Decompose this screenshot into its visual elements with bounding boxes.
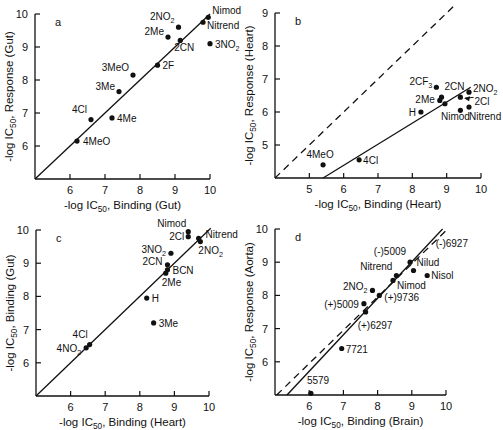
data-point xyxy=(116,89,121,94)
point-label: 4Me xyxy=(117,113,137,124)
point-label: H xyxy=(152,293,159,304)
panel-b: 567891056789b-log IC50​, Binding (Heart)… xyxy=(243,6,501,213)
y-tick-label: 8 xyxy=(23,290,29,302)
y-tick-label: 7 xyxy=(23,324,29,336)
x-tick-label: 6 xyxy=(67,184,73,196)
regression-line xyxy=(323,87,471,178)
x-axis-title: -log IC50​, Binding (Heart) xyxy=(59,416,186,430)
point-label: Nilud xyxy=(417,257,440,268)
data-point xyxy=(308,391,313,396)
figure-canvas: 678910678910a-log IC50​, Binding (Gut)-l… xyxy=(0,0,503,430)
point-label: Nitrend xyxy=(469,111,501,122)
y-tick-label: 7 xyxy=(262,73,268,85)
point-label: Nitrend xyxy=(207,20,239,31)
point-label: (+)6297 xyxy=(358,320,393,331)
panel-letter: d xyxy=(295,231,301,243)
data-point xyxy=(87,342,92,347)
point-label: 5579 xyxy=(307,375,330,386)
point-label: 2NO2​ xyxy=(343,281,368,295)
data-point xyxy=(339,346,344,351)
data-point xyxy=(466,90,471,95)
annotation-label: (-)6927 xyxy=(436,238,469,249)
data-point xyxy=(390,278,395,283)
y-tick-label: 7 xyxy=(262,323,268,335)
data-point xyxy=(165,35,170,40)
x-axis-title: -log IC50​, Binding (Brain) xyxy=(298,415,424,430)
point-label: 2CN xyxy=(142,256,162,267)
y-tick-label: 9 xyxy=(262,256,268,268)
point-label: 2Me xyxy=(415,94,435,105)
panel-letter: a xyxy=(55,16,62,28)
point-label: 2F xyxy=(163,60,175,71)
y-tick-label: 6 xyxy=(23,357,29,369)
point-label: (-)5009 xyxy=(374,246,407,257)
point-label: Nitrend xyxy=(206,229,238,240)
point-label: 7721 xyxy=(346,344,369,355)
point-label: 3Me xyxy=(159,318,179,329)
point-label: 4NO2​ xyxy=(57,343,82,357)
y-tick-label: 10 xyxy=(17,224,29,236)
x-tick-label: 9 xyxy=(171,401,177,413)
data-point xyxy=(176,25,181,30)
y-tick-label: 9 xyxy=(22,41,28,53)
annotation-label: 2Cl xyxy=(475,96,490,107)
point-label: Nimod xyxy=(157,218,186,229)
point-label: 2Cl xyxy=(169,231,184,242)
y-tick-label: 6 xyxy=(262,106,268,118)
y-axis-title: -log IC50​, Response (Gut) xyxy=(3,31,18,162)
point-label: 2NO2​ xyxy=(198,245,223,259)
y-tick-label: 10 xyxy=(256,223,268,235)
point-label: H xyxy=(409,107,416,118)
point-label: 2NO2​ xyxy=(473,83,498,97)
point-label: 2NO2​ xyxy=(150,11,175,25)
point-label: 2CN xyxy=(174,42,194,53)
data-point xyxy=(357,157,362,162)
data-point xyxy=(155,63,160,68)
x-axis-title: -log IC50​, Binding (Gut) xyxy=(64,199,181,214)
x-tick-label: 7 xyxy=(102,184,108,196)
data-point xyxy=(206,15,211,20)
data-point xyxy=(439,95,444,100)
x-tick-label: 6 xyxy=(306,400,312,412)
panel-d: 678910678910d-log IC50​, Binding (Brain)… xyxy=(243,223,468,430)
data-point xyxy=(394,273,399,278)
data-point xyxy=(442,101,447,106)
point-label: 2CF3​ xyxy=(409,76,432,90)
x-tick-label: 8 xyxy=(375,400,381,412)
point-label: 2CN xyxy=(445,81,465,92)
data-point xyxy=(363,309,368,314)
x-tick-label: 10 xyxy=(475,183,487,195)
data-point xyxy=(186,234,191,239)
data-point xyxy=(207,41,212,46)
x-tick-label: 5 xyxy=(306,183,312,195)
y-tick-label: 7 xyxy=(22,107,28,119)
x-tick-label: 6 xyxy=(341,183,347,195)
point-label: Nitrend xyxy=(360,261,392,272)
point-label: Nimod xyxy=(212,5,241,16)
data-point xyxy=(186,229,191,234)
panel-letter: b xyxy=(295,15,301,27)
y-axis-title: -log IC50​, Response (Aorta) xyxy=(243,242,258,382)
y-tick-label: 9 xyxy=(23,257,29,269)
x-tick-label: 9 xyxy=(409,400,415,412)
point-label: Nisol xyxy=(431,270,453,281)
y-tick-label: 10 xyxy=(16,8,28,20)
point-label: (+)5009 xyxy=(324,299,359,310)
x-tick-label: 9 xyxy=(172,184,178,196)
point-label: (+)9736 xyxy=(384,292,419,303)
panel-letter: c xyxy=(56,232,62,244)
point-label: BCN xyxy=(172,265,193,276)
data-point xyxy=(458,108,463,113)
data-point xyxy=(466,104,471,109)
x-tick-label: 7 xyxy=(375,183,381,195)
y-tick-label: 6 xyxy=(262,356,268,368)
data-point xyxy=(144,295,149,300)
data-point xyxy=(370,288,375,293)
x-tick-label: 6 xyxy=(68,401,74,413)
panel-c: 678910678910c-log IC50​, Binding (Heart)… xyxy=(4,218,238,430)
point-label: 3Me xyxy=(96,81,116,92)
panel-a: 678910678910a-log IC50​, Binding (Gut)-l… xyxy=(3,5,241,214)
x-tick-label: 8 xyxy=(137,184,143,196)
data-point xyxy=(165,267,170,272)
data-point xyxy=(320,162,325,167)
